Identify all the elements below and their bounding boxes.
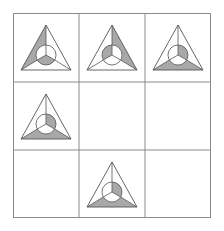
puzzle-grid-canvas bbox=[13, 13, 211, 218]
puzzle-grid bbox=[13, 13, 211, 218]
figure-cell bbox=[14, 14, 79, 82]
empty-cell[interactable] bbox=[14, 151, 79, 218]
empty-cell[interactable] bbox=[146, 83, 211, 150]
empty-cell[interactable] bbox=[80, 83, 145, 150]
empty-cell[interactable] bbox=[146, 151, 211, 218]
figure-cell bbox=[80, 151, 145, 218]
figure-cell bbox=[146, 14, 211, 82]
figure-cell bbox=[14, 83, 79, 150]
figure-cell bbox=[80, 14, 145, 82]
